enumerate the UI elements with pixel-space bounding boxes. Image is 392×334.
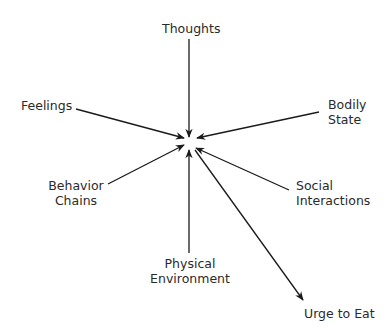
node-bodily-state-line1: Bodily (328, 97, 367, 112)
arrow-bodily-state (197, 112, 319, 138)
node-physical-environment-line2: Environment (148, 271, 232, 286)
node-behavior-chains-line2: Chains (46, 193, 106, 208)
node-thoughts-label: Thoughts (162, 21, 220, 36)
arrow-feelings (76, 109, 184, 138)
node-urge-to-eat-label: Urge to Eat (304, 306, 375, 321)
arrow-behavior-chains (108, 145, 184, 184)
node-urge-to-eat: Urge to Eat (304, 306, 375, 321)
node-behavior-chains: Behavior Chains (46, 178, 106, 208)
node-feelings: Feelings (21, 98, 72, 113)
node-social-interactions-line1: Social (296, 178, 370, 193)
node-bodily-state: Bodily State (328, 97, 367, 127)
node-behavior-chains-line1: Behavior (46, 178, 106, 193)
node-physical-environment-line1: Physical (148, 256, 232, 271)
node-physical-environment: Physical Environment (148, 256, 232, 286)
node-bodily-state-line2: State (328, 112, 367, 127)
node-thoughts: Thoughts (162, 21, 218, 36)
node-feelings-label: Feelings (21, 98, 72, 113)
arrow-social-interactions (196, 148, 289, 190)
node-social-interactions: Social Interactions (296, 178, 370, 208)
node-social-interactions-line2: Interactions (296, 193, 370, 208)
